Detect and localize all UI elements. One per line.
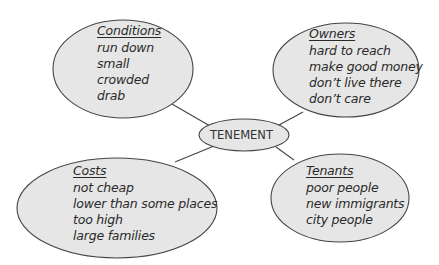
node-item: hard to reach [309, 43, 423, 59]
node-item: lower than some places [73, 196, 217, 212]
connector-owners [279, 112, 303, 125]
node-item: poor people [306, 180, 404, 196]
node-item: run down [97, 40, 161, 56]
node-heading: Costs [73, 163, 217, 179]
node-tenants: Tenants poor people new immigrants city … [306, 163, 404, 228]
node-item: crowded [97, 72, 161, 88]
connector-tenants [276, 147, 294, 160]
node-conditions: Conditions run down small crowded drab [97, 23, 161, 104]
node-item: new immigrants [306, 196, 404, 212]
node-costs: Costs not cheap lower than some places t… [73, 163, 217, 244]
node-item: drab [97, 88, 161, 104]
node-owners: Owners hard to reach make good money don… [309, 26, 423, 107]
node-item: make good money [309, 59, 423, 75]
node-heading: Tenants [306, 163, 404, 179]
center-topic-label: TENEMENT [210, 128, 273, 142]
node-item: don’t live there [309, 75, 423, 91]
node-item: city people [306, 212, 404, 228]
node-heading: Owners [309, 26, 423, 42]
connector-conditions [172, 104, 210, 126]
node-item: not cheap [73, 180, 217, 196]
node-item: don’t care [309, 91, 423, 107]
node-heading: Conditions [97, 23, 161, 39]
node-item: large families [73, 228, 217, 244]
node-item: too high [73, 212, 217, 228]
node-item: small [97, 56, 161, 72]
connector-costs [175, 146, 214, 162]
